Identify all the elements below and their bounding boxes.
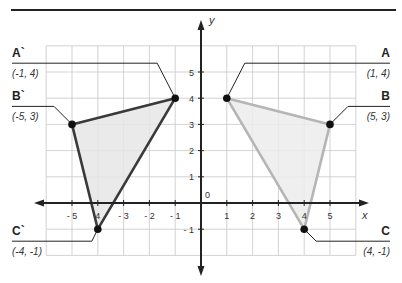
vertex-name-label: B` [12, 89, 25, 103]
vertex-point [326, 121, 334, 129]
x-axis-left-arrow-icon [34, 200, 44, 207]
vertex-coordinate-label: (4, -1) [363, 246, 390, 257]
callout-leader-line [227, 63, 390, 98]
vertex-coordinate-label: (-5, 3) [12, 111, 39, 122]
x-tick-label: 5 [327, 211, 332, 221]
callout-leader-line [12, 229, 98, 241]
callout-leader-line [304, 229, 390, 241]
x-tick-label: - 5 [67, 211, 78, 221]
x-tick-label: 3 [276, 211, 281, 221]
y-tick-label: 2 [189, 146, 194, 156]
y-tick-label: 3 [189, 120, 194, 130]
x-tick-label: - 3 [118, 211, 129, 221]
vertex-coordinate-label: (-4, -1) [12, 246, 42, 257]
vertex-coordinate-label: (-1, 4) [12, 68, 39, 79]
vertex-name-label: A` [12, 46, 25, 60]
y-tick-label: 1 [189, 172, 194, 182]
vertex-point [68, 121, 76, 129]
origin-label: 0 [205, 190, 210, 200]
vertex-name-label: C` [12, 224, 25, 238]
vertex-name-label: B [381, 89, 390, 103]
y-axis-down-arrow-icon [198, 266, 205, 276]
x-axis-label: x [361, 209, 368, 221]
vertex-point [223, 94, 231, 102]
x-tick-label: 4 [302, 211, 307, 221]
x-tick-label: 1 [224, 211, 229, 221]
y-tick-label: 4 [189, 94, 194, 104]
y-tick-label: - 1 [183, 225, 194, 235]
vertex-coordinate-label: (5, 3) [367, 111, 390, 122]
vertex-point [171, 94, 179, 102]
x-axis-right-arrow-icon [359, 200, 369, 207]
x-tick-label: - 1 [170, 211, 181, 221]
vertex-name-label: C [381, 224, 390, 238]
y-axis-label: y [208, 14, 216, 26]
x-tick-label: 2 [250, 211, 255, 221]
coordinate-plane-figure: xy0- 54- 3- 2- 11234554321- 1 A`(-1, 4)B… [0, 0, 402, 283]
y-axis-up-arrow-icon [198, 20, 205, 30]
x-tick-label: 4 [95, 211, 100, 221]
vertex-name-label: A [381, 46, 390, 60]
vertex-point [300, 225, 308, 233]
vertex-point [94, 225, 102, 233]
x-tick-label: - 2 [144, 211, 155, 221]
y-tick-label: 5 [189, 68, 194, 78]
vertex-coordinate-label: (1, 4) [367, 68, 390, 79]
